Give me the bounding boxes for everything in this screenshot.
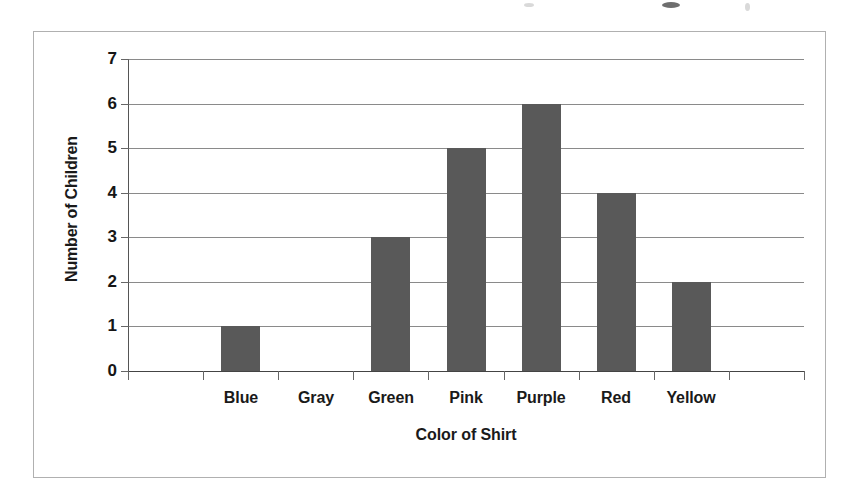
x-tick-label: Gray bbox=[298, 389, 334, 407]
x-tick-mark bbox=[203, 371, 204, 380]
y-axis-title: Number of Children bbox=[63, 109, 81, 309]
bar bbox=[221, 326, 260, 371]
plot-area: 01234567 BlueGrayGreenPinkPurpleRedYello… bbox=[128, 59, 804, 371]
gridline bbox=[128, 59, 804, 60]
y-tick-mark bbox=[121, 326, 129, 327]
chart-frame: Number of Children 01234567 BlueGrayGree… bbox=[33, 31, 826, 478]
bar bbox=[447, 148, 486, 371]
bar bbox=[371, 237, 410, 371]
x-tick-mark bbox=[278, 371, 279, 380]
x-tick-mark bbox=[504, 371, 505, 380]
y-tick-label: 5 bbox=[108, 138, 117, 158]
y-tick-mark bbox=[121, 237, 129, 238]
category-axis-line bbox=[128, 371, 804, 372]
y-tick-label: 1 bbox=[108, 316, 117, 336]
y-tick-label: 7 bbox=[108, 49, 117, 69]
x-tick-mark bbox=[353, 371, 354, 380]
y-tick-mark bbox=[121, 148, 129, 149]
x-tick-label: Red bbox=[601, 389, 631, 407]
y-tick-mark bbox=[121, 59, 129, 60]
x-tick-mark bbox=[729, 371, 730, 380]
x-tick-mark bbox=[804, 371, 805, 380]
x-tick-label: Pink bbox=[449, 389, 482, 407]
gridline bbox=[128, 104, 804, 105]
y-tick-mark bbox=[121, 282, 129, 283]
bar-chart-figure: Number of Children 01234567 BlueGrayGree… bbox=[34, 32, 825, 477]
x-tick-mark bbox=[579, 371, 580, 380]
x-tick-label: Yellow bbox=[666, 389, 715, 407]
y-tick-label: 2 bbox=[108, 271, 117, 291]
y-tick-label: 4 bbox=[108, 182, 117, 202]
x-tick-label: Blue bbox=[224, 389, 258, 407]
bar bbox=[597, 193, 636, 371]
y-tick-label: 0 bbox=[108, 361, 117, 381]
x-tick-mark bbox=[654, 371, 655, 380]
x-tick-label: Green bbox=[368, 389, 414, 407]
x-tick-mark bbox=[128, 371, 129, 380]
y-tick-mark bbox=[121, 104, 129, 105]
scan-artifacts bbox=[0, 0, 856, 22]
x-tick-mark bbox=[428, 371, 429, 380]
bar bbox=[522, 104, 561, 371]
y-tick-label: 3 bbox=[108, 227, 117, 247]
y-tick-label: 6 bbox=[108, 93, 117, 113]
x-axis-title: Color of Shirt bbox=[128, 426, 804, 444]
y-tick-mark bbox=[121, 193, 129, 194]
bar bbox=[672, 282, 711, 371]
value-axis-line bbox=[128, 59, 129, 372]
x-tick-label: Purple bbox=[516, 389, 565, 407]
